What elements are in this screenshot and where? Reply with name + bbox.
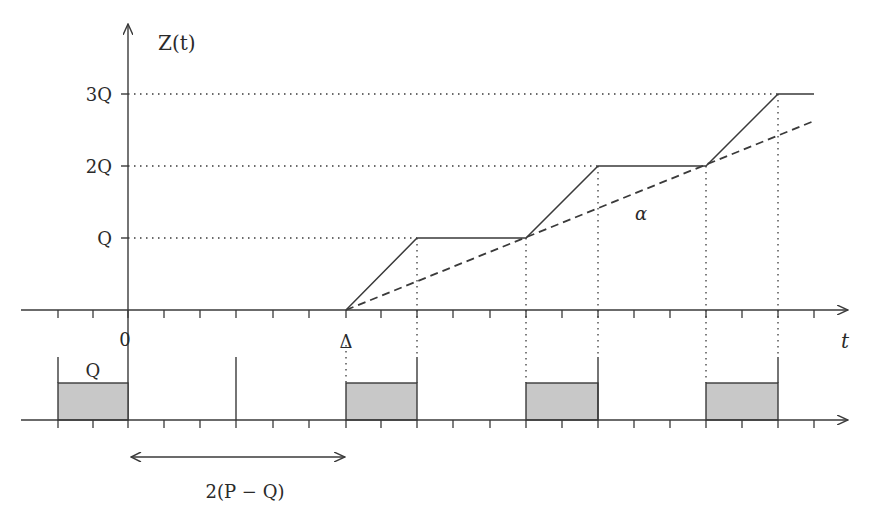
origin-label: 0 bbox=[119, 329, 130, 350]
bar-4 bbox=[706, 383, 778, 420]
production-bars bbox=[58, 383, 778, 420]
bar-label: Q bbox=[86, 360, 101, 381]
x-axis-label: t bbox=[841, 329, 850, 353]
x-axis-lower-ticks bbox=[58, 420, 814, 428]
bar-3 bbox=[526, 383, 598, 420]
level-label-3q: 3Q bbox=[86, 84, 112, 105]
interval-label: 2(P − Q) bbox=[206, 481, 285, 502]
average-slope-line bbox=[346, 121, 814, 310]
delta-label: Δ bbox=[340, 331, 353, 352]
step-function-diagram: Z(t) 3Q 2Q Q 0 Δ t α Q 2(P − Q) bbox=[0, 0, 869, 515]
slope-label: α bbox=[635, 203, 647, 224]
level-label-q: Q bbox=[97, 228, 112, 249]
bar-2 bbox=[346, 383, 417, 420]
cycle-markers bbox=[58, 357, 778, 420]
y-axis-label: Z(t) bbox=[158, 31, 196, 55]
bar-1 bbox=[58, 383, 128, 420]
level-label-2q: 2Q bbox=[86, 156, 112, 177]
y-axis-ticks bbox=[121, 94, 128, 238]
x-axis-upper-ticks bbox=[58, 310, 814, 318]
z-curve bbox=[346, 94, 814, 310]
